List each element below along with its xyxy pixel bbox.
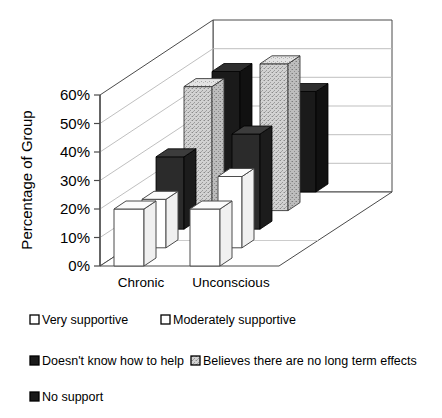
legend: Very supportive Moderately supportive Do… [30,313,417,404]
ytick-label-30: 30% [60,172,90,189]
legend-item-doesnt-know-how-to-help[interactable]: Doesn't know how to help [30,354,184,368]
ytick-label-60: 60% [60,86,90,103]
x-axis-labels: Chronic Unconscious [118,275,270,290]
ytick-label-40: 40% [60,143,90,160]
bar-chart-3d: 60% 50% 40% 30% 20% 10% 0% Percentage of… [0,0,442,418]
legend-swatch-white-icon [161,315,170,324]
legend-item-believes-no-long-term-effects[interactable]: Believes there are no long term effects [191,354,417,368]
category-label-chronic: Chronic [118,275,165,290]
legend-swatch-dark-icon [30,356,39,365]
legend-item-very-supportive[interactable]: Very supportive [30,313,128,327]
ytick-label-0: 0% [68,257,90,274]
legend-label-doesnt-know-how-to-help: Doesn't know how to help [42,354,184,368]
bar-chronic-very-supportive [114,201,156,266]
legend-label-no-support: No support [42,390,104,404]
y-axis-title: Percentage of Group [18,110,35,249]
legend-swatch-white-icon [30,315,39,324]
y-axis [94,95,100,266]
legend-swatch-black-icon [30,392,39,401]
bar-unconscious-very-supportive [190,201,232,266]
legend-item-no-support[interactable]: No support [30,390,104,404]
legend-swatch-speckled-icon [191,356,200,365]
ytick-label-10: 10% [60,229,90,246]
legend-label-moderately-supportive: Moderately supportive [173,313,296,327]
y-tick-labels: 60% 50% 40% 30% 20% 10% 0% [60,86,90,274]
legend-label-very-supportive: Very supportive [42,313,128,327]
ytick-label-50: 50% [60,115,90,132]
legend-label-believes-no-long-term-effects: Believes there are no long term effects [203,354,417,368]
legend-item-moderately-supportive[interactable]: Moderately supportive [161,313,296,327]
chart-container: 60% 50% 40% 30% 20% 10% 0% Percentage of… [0,0,442,418]
category-label-unconscious: Unconscious [192,275,270,290]
ytick-label-20: 20% [60,200,90,217]
